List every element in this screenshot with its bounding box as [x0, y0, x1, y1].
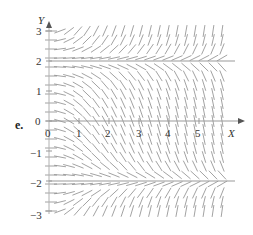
slope-segment [137, 188, 144, 198]
slope-segment [149, 205, 152, 217]
slope-segment [167, 205, 169, 217]
slope-segment [221, 205, 223, 217]
slope-segment [64, 27, 74, 34]
slope-segment [181, 181, 192, 186]
x-tick-4: 4 [165, 128, 171, 139]
slope-segment [102, 107, 108, 117]
slope-segment [83, 125, 91, 134]
slope-segment [63, 74, 75, 77]
slope-segment [191, 63, 200, 71]
slope-segment [154, 172, 164, 179]
slope-segment [121, 106, 126, 117]
slope-segment [128, 161, 136, 170]
slope-segment [111, 143, 117, 153]
slope-segment [63, 47, 75, 50]
slope-segment [147, 161, 154, 171]
slope-segment [100, 72, 109, 79]
slope-segment [82, 153, 92, 160]
slope-segment [137, 44, 144, 54]
slope-segment [154, 64, 164, 71]
y-tick-0: 0 [35, 116, 41, 127]
slope-segment [200, 63, 209, 71]
slope-segment [121, 134, 126, 145]
slope-segment [199, 55, 210, 61]
slope-segment [167, 25, 169, 37]
y-tick-neg1: −1 [30, 148, 42, 159]
slope-segment [92, 143, 100, 152]
slope-segment [221, 25, 223, 37]
x-axis-label: X [228, 127, 235, 139]
slope-segment [147, 44, 154, 54]
slope-segment [199, 181, 210, 187]
slope-segment [211, 43, 216, 54]
slope-segment [130, 205, 133, 217]
slope-segment [137, 71, 144, 81]
slope-segment [127, 64, 138, 69]
slope-segment [165, 44, 171, 54]
slope-segment [158, 205, 161, 217]
slope-segment [194, 205, 196, 217]
slope-segment [190, 181, 201, 186]
slope-segment [110, 72, 119, 80]
slope-segment [83, 90, 92, 98]
y-tick-neg3: −3 [30, 210, 42, 221]
slope-segment [181, 55, 192, 60]
slope-segment [111, 125, 116, 136]
slope-segment [63, 155, 74, 159]
slope-segment [93, 125, 100, 135]
slope-segment [73, 91, 83, 98]
slope-segment [183, 44, 188, 55]
slope-segment [139, 25, 142, 37]
y-tick-neg2: −2 [30, 178, 42, 189]
slope-segment [202, 44, 207, 55]
slope-segment [82, 81, 92, 88]
x-tick-5: 5 [195, 128, 201, 139]
slope-segment [163, 63, 173, 70]
x-axis-arrow-icon [238, 118, 245, 124]
slope-segment [112, 205, 116, 216]
slope-segment [92, 35, 100, 44]
slope-segment [121, 98, 126, 109]
slope-segment [176, 25, 178, 37]
slope-segment [100, 189, 109, 196]
slope-segment [64, 91, 75, 96]
slope-segment [83, 99, 91, 108]
x-tick-3: 3 [136, 128, 142, 139]
slope-segment [92, 81, 101, 89]
slope-segment [110, 162, 119, 170]
slope-segment [172, 63, 181, 70]
slope-segment [190, 55, 201, 60]
slope-segment [120, 152, 127, 162]
slope-segment [73, 36, 83, 43]
slope-segment [101, 80, 109, 89]
slope-segment [203, 25, 205, 37]
slope-segment [111, 98, 117, 109]
slope-segment [100, 162, 109, 169]
slope-segment [63, 83, 74, 87]
slope-segment [93, 206, 99, 217]
slope-segment [128, 188, 136, 197]
part-label: e. [15, 118, 23, 133]
slope-segment [92, 153, 101, 161]
slope-segment [136, 172, 146, 178]
slope-segment [165, 188, 171, 198]
slope-segment [83, 135, 91, 144]
slope-segment [64, 109, 74, 115]
slope-segment [64, 127, 74, 133]
slope-segment [145, 64, 155, 70]
slope-segment [192, 188, 197, 199]
slope-segment [103, 206, 108, 217]
slope-segment [102, 98, 108, 108]
slope-segment [145, 172, 155, 178]
slope-segment [84, 26, 91, 36]
slope-segment [209, 171, 217, 180]
slope-segment [83, 36, 92, 44]
slope-segment [121, 25, 125, 36]
slope-segment [63, 191, 75, 194]
slope-segment [217, 55, 227, 61]
slope-segment [119, 162, 127, 171]
slope-segment [120, 89, 126, 100]
slope-segment [203, 205, 205, 217]
slope-segment [174, 44, 180, 55]
slope-segment [74, 207, 82, 216]
